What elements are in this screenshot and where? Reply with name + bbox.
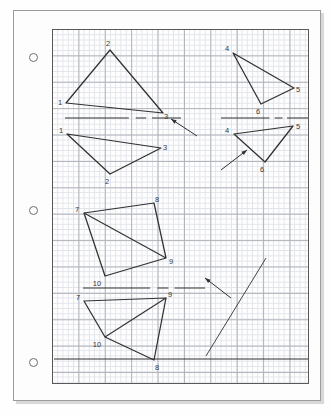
triangle-1-2-3-image-outline	[67, 134, 161, 174]
vertex-label-2: 2	[106, 39, 110, 48]
vertex-label-5: 5	[296, 85, 300, 94]
vertex-label-9: 9	[169, 257, 173, 266]
vertex-label-3: 3	[163, 143, 167, 152]
vertex-label-1: 1	[58, 98, 62, 107]
quadrilateral-7-9-8-10-image-outline	[84, 298, 166, 360]
vertex-label-2: 2	[105, 177, 109, 186]
vertex-label-6: 6	[256, 107, 260, 116]
punch-hole-icon	[29, 53, 38, 62]
punch-hole-icon	[29, 358, 38, 367]
vertex-label-6: 6	[260, 165, 264, 174]
vertex-label-8: 8	[155, 195, 159, 204]
vertex-label-10: 10	[93, 340, 101, 349]
triangle-4-5-6-preimage-outline	[233, 53, 294, 104]
arrow-top-left	[171, 119, 197, 136]
mirror-line-diagonal	[206, 258, 266, 356]
vertex-label-8: 8	[155, 363, 159, 372]
triangle-4-5-6-preimage: 456	[225, 44, 300, 116]
vertex-label-7: 7	[75, 205, 79, 214]
triangle-1-2-3-image: 132	[59, 126, 167, 186]
quadrilateral-7-9-8-10-image: 79810	[76, 290, 172, 372]
triangle-4-5-6-image-outline	[234, 126, 293, 162]
quadrilateral-7-8-9-10-preimage: 78910	[75, 195, 173, 288]
vertex-label-4: 4	[225, 44, 229, 53]
triangle-1-2-3-preimage-outline	[66, 50, 163, 113]
punch-hole-icon	[29, 206, 38, 215]
quadrilateral-7-9-8-10-image-diagonal	[105, 298, 166, 337]
worksheet-page: 1231324564567891079810	[0, 0, 332, 414]
vertex-label-9: 9	[168, 290, 172, 299]
graph-paper-area: 1231324564567891079810	[52, 29, 309, 384]
triangle-4-5-6-image: 456	[225, 122, 300, 174]
vertex-label-3: 3	[164, 112, 168, 121]
vertex-label-1: 1	[59, 126, 63, 135]
binder-margin-strip	[14, 11, 52, 400]
arrow-middle	[205, 278, 231, 298]
triangle-1-2-3-preimage: 123	[58, 39, 168, 121]
vertex-label-7: 7	[76, 293, 80, 302]
vertex-label-4: 4	[225, 126, 229, 135]
reflection-diagram: 1231324564567891079810	[53, 30, 309, 384]
vertex-label-10: 10	[93, 279, 101, 288]
quadrilateral-7-8-9-10-preimage-outline	[84, 203, 166, 276]
vertex-label-5: 5	[296, 122, 300, 131]
scanned-page-frame: 1231324564567891079810	[13, 10, 321, 401]
arrow-top-right	[221, 150, 247, 170]
arrow-top-left-head	[171, 119, 177, 124]
